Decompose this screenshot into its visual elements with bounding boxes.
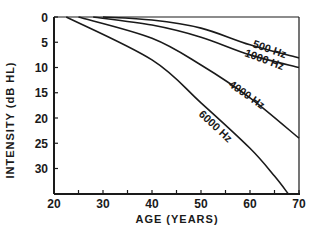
series-label-6000hz: 6000 Hz [197,108,236,145]
series-label-4000hz: 4000 Hz [227,78,268,112]
hearing-loss-chart: 051015202530203040506070 500 Hz1000 Hz40… [0,0,319,236]
x-tick-label: 60 [243,197,257,211]
y-tick-label: 25 [35,137,49,151]
y-tick-label: 5 [41,36,48,50]
x-tick-label: 30 [96,197,110,211]
series-labels: 500 Hz1000 Hz4000 Hz6000 Hz [197,38,289,145]
y-tick-label: 10 [35,61,49,75]
y-tick-label: 15 [35,86,49,100]
x-tick-label: 50 [194,197,208,211]
x-axis-title: AGE (YEARS) [135,213,218,225]
x-tick-label: 20 [47,197,61,211]
x-tick-label: 70 [292,197,306,211]
y-tick-label: 0 [41,11,48,25]
y-axis-title: INTENSITY (dB HL) [4,61,16,178]
y-tick-label: 20 [35,112,49,126]
curve-4000hz [79,17,300,138]
y-tick-label: 30 [35,162,49,176]
x-tick-label: 40 [145,197,159,211]
